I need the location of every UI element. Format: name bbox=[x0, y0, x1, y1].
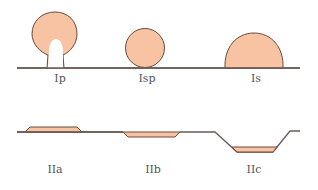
shape-iib bbox=[123, 132, 180, 137]
shape-isp bbox=[126, 29, 165, 68]
shape-iia bbox=[25, 127, 82, 132]
label-isp: Isp bbox=[138, 72, 155, 85]
shape-ip bbox=[32, 12, 77, 68]
shape-iic bbox=[232, 147, 277, 152]
label-iic: IIc bbox=[247, 163, 262, 176]
label-iib: IIb bbox=[145, 163, 161, 176]
label-iia: IIa bbox=[47, 163, 63, 176]
label-ip: Ip bbox=[54, 72, 65, 85]
lesion-classification-diagram: Ip Isp Is IIa IIb IIc bbox=[0, 0, 318, 190]
label-is: Is bbox=[251, 72, 261, 85]
shape-is bbox=[225, 33, 283, 68]
